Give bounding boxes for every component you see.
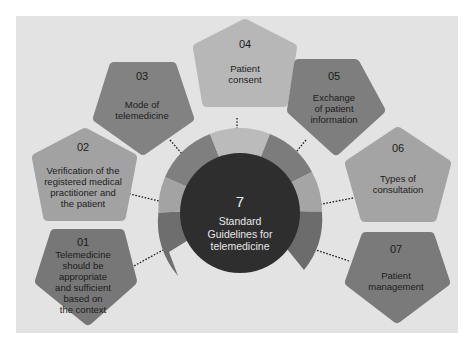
guideline-01-number: 01 <box>53 236 113 248</box>
guideline-05-number: 05 <box>304 70 364 82</box>
connector-07 <box>316 250 349 261</box>
guideline-07-label: Patientmanagement <box>351 270 441 292</box>
guideline-03-label: Mode oftelemedicine <box>97 99 187 121</box>
center-circle <box>180 153 300 273</box>
center-number: 7 <box>210 193 270 210</box>
guideline-06-number: 06 <box>368 142 428 154</box>
center-title: Standard Guidelines for telemedicine <box>190 215 290 253</box>
guideline-02-label: Verification of theregistered medicalpra… <box>33 165 133 209</box>
guideline-07-number: 07 <box>366 243 426 255</box>
guideline-02-number: 02 <box>53 141 113 153</box>
connector-06 <box>317 198 353 205</box>
guideline-04-number: 04 <box>215 38 275 50</box>
guideline-05-label: Exchangeof patientinformation <box>289 92 379 125</box>
guideline-04-label: Patientconsent <box>200 63 290 85</box>
guideline-01-label: Telemedicineshould beappropriateand suff… <box>38 249 128 315</box>
guideline-06-label: Types ofconsultation <box>353 173 443 195</box>
guideline-03-number: 03 <box>112 70 172 82</box>
